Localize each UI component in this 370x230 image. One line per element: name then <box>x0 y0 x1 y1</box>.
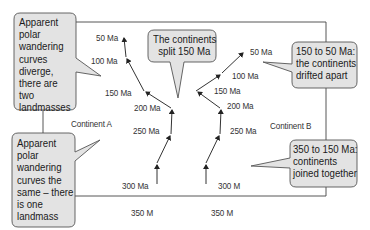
callout-same-text: Apparent polar wandering curves the same… <box>17 137 73 222</box>
callout-line: is one <box>17 198 73 210</box>
continent-a-label: Continent A <box>71 119 112 129</box>
callout-line: curves the <box>17 174 73 186</box>
callout-line: two <box>19 89 71 101</box>
curve-a-label-350: 350 M <box>131 208 153 218</box>
curve-b-label-150: 150 Ma <box>214 86 240 96</box>
callout-line: there are <box>19 77 71 89</box>
callout-line: Apparent <box>19 16 71 28</box>
curve-b-label-50: 50 Ma <box>250 47 272 57</box>
callout-diverge-text: Apparent polar wandering curves diverge,… <box>19 16 71 114</box>
callout-line: continents <box>293 155 357 167</box>
callout-line: joined together <box>293 167 357 179</box>
curve-b-label-350: 350 M <box>211 208 233 218</box>
callout-line: polar <box>17 149 73 161</box>
curve-b-label-100: 100 Ma <box>232 71 258 81</box>
curve-a-label-50: 50 Ma <box>96 33 118 43</box>
callout-line: 350 to 150 Ma: <box>293 143 357 155</box>
curve-a-label-150: 150 Ma <box>105 88 131 98</box>
callout-line: landmass <box>17 210 73 222</box>
curve-a-label-100: 100 Ma <box>91 56 117 66</box>
callout-line: The continents <box>153 33 216 45</box>
callout-line: Apparent <box>17 137 73 149</box>
curve-b-label-250: 250 Ma <box>230 126 256 136</box>
curve-b-label-300: 300 M <box>218 181 240 191</box>
callout-line: diverge, <box>19 65 71 77</box>
continent-b-label: Continent B <box>270 121 311 131</box>
curve-a-label-300: 300 Ma <box>122 181 148 191</box>
callout-line: same – there <box>17 186 73 198</box>
callout-line: wandering <box>19 40 71 52</box>
callout-line: the continents <box>296 57 356 69</box>
callout-split-text: The continents split 150 Ma <box>153 33 216 57</box>
callout-joined-text: 350 to 150 Ma: continents joined togethe… <box>293 143 357 180</box>
callout-line: split 150 Ma <box>153 45 216 57</box>
callout-line: polar <box>19 28 71 40</box>
callout-line: drifted apart <box>296 69 356 81</box>
callout-line: curves <box>19 53 71 65</box>
callout-line: 150 to 50 Ma: <box>296 45 356 57</box>
callout-drifted-text: 150 to 50 Ma: the continents drifted apa… <box>296 45 356 82</box>
curve-b-label-200: 200 Ma <box>227 101 253 111</box>
curve-a-label-250: 250 Ma <box>133 126 159 136</box>
callout-line: wandering <box>17 161 73 173</box>
curve-a-label-200: 200 Ma <box>134 103 160 113</box>
callout-line: landmasses <box>19 101 71 113</box>
